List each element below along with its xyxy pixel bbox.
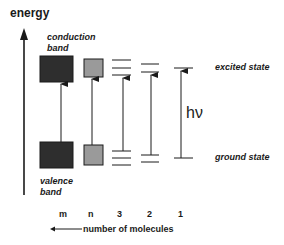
x-axis-caption: number of molecules [83,224,174,234]
ground-state-label: ground state [215,152,270,163]
caption-arrowhead [50,227,55,232]
levels-2 [141,64,159,162]
energy-axis-label: energy [10,6,49,20]
x-label-n: n [88,209,94,219]
x-label-2: 2 [147,209,152,219]
excited-state-label: excited state [215,62,270,73]
x-label-m: m [59,209,67,219]
levels-3 [112,60,131,165]
x-label-3: 3 [117,209,122,219]
conduction-band-n [84,59,103,77]
energy-level-diagram [0,0,284,245]
valence-band-m [40,142,73,168]
valence-band-n [84,145,103,165]
x-label-1: 1 [178,209,183,219]
energy-axis-arrowhead [20,28,28,40]
conduction-band-label: conduction band [47,32,96,54]
conduction-band-m [40,56,73,82]
valence-band-label: valence band [40,176,73,198]
photon-energy-label: hν [186,104,203,122]
